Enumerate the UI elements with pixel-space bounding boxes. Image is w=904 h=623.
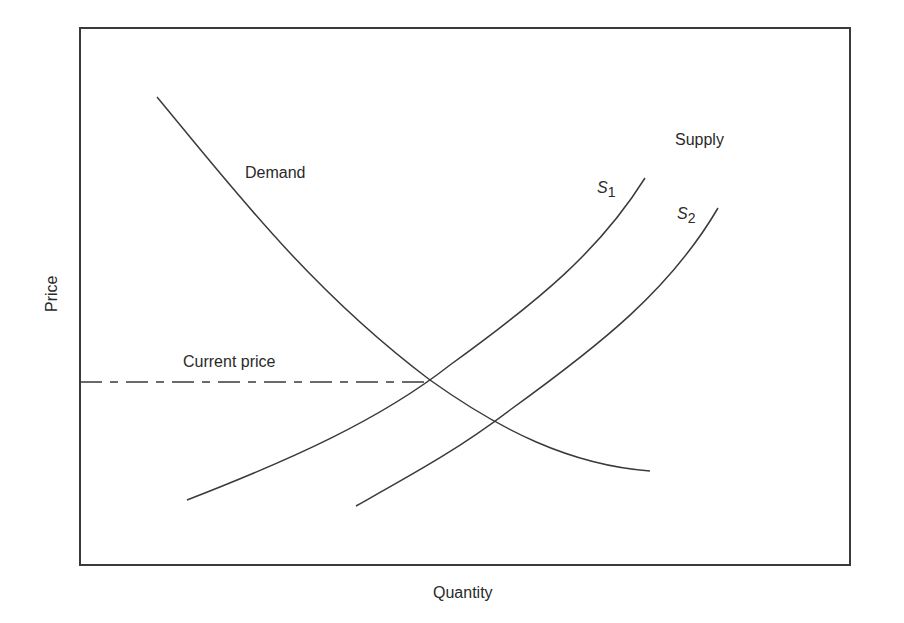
supply-label: Supply (675, 131, 724, 148)
supply-curve-s2 (356, 208, 718, 506)
demand-label: Demand (245, 164, 305, 181)
supply-curve-s1 (187, 178, 645, 500)
s1-label: S1 (597, 179, 616, 200)
x-axis-label: Quantity (433, 584, 493, 601)
current-price-label: Current price (183, 353, 276, 370)
plot-frame (80, 28, 850, 565)
supply-demand-chart: Demand Supply S1 S2 Current price Quanti… (0, 0, 904, 623)
demand-curve (157, 97, 650, 471)
y-axis-label: Price (43, 275, 60, 312)
s2-label: S2 (677, 205, 696, 226)
